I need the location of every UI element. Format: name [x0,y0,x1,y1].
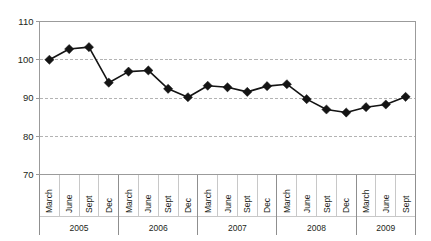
y-axis-tick-label: 70 [23,169,34,180]
x-axis-month-label: Dec [104,197,114,213]
series-line [49,47,405,112]
x-axis-month-label: Sept [242,195,252,213]
line-chart: 708090100110MarchJuneSeptDecMarchJuneSep… [0,0,431,241]
x-axis-month-label: March [203,189,213,213]
x-axis-year-label: 2007 [228,223,247,233]
x-axis-month-label: March [124,189,134,213]
data-point-marker [342,108,351,117]
x-axis-month-label: June [302,194,312,213]
x-axis-year-label: 2009 [376,223,395,233]
x-axis-month-label: Sept [163,195,173,213]
x-axis-month-label: March [361,189,371,213]
x-axis-month-label: Sept [84,195,94,213]
x-axis-year-label: 2008 [307,223,326,233]
data-point-marker [84,43,93,52]
y-axis-tick-label: 90 [23,92,34,103]
data-point-marker [401,92,410,101]
data-point-marker [381,100,390,109]
y-axis-tick-label: 110 [18,16,33,27]
x-axis-month-label: June [143,194,153,213]
x-axis-year-label: 2005 [70,223,89,233]
data-point-marker [262,82,271,91]
x-axis-month-label: June [64,194,74,213]
data-point-marker [243,87,252,96]
x-axis-month-label: Sept [322,195,332,213]
x-axis-month-label: Dec [183,197,193,213]
data-point-marker [183,93,192,102]
y-axis-tick-label: 80 [23,131,34,142]
y-axis-tick-label: 100 [18,54,34,65]
data-point-marker [203,81,212,90]
data-point-marker [361,103,370,112]
x-axis-year-label: 2006 [149,223,168,233]
x-axis-month-label: June [223,194,233,213]
data-point-marker [65,44,74,53]
x-axis-month-label: Sept [401,195,411,213]
data-point-marker [124,67,133,76]
chart-canvas: 708090100110MarchJuneSeptDecMarchJuneSep… [0,0,431,241]
data-point-marker [45,55,54,64]
x-axis-month-label: Dec [341,197,351,213]
data-point-marker [104,78,113,87]
x-axis-month-label: June [381,194,391,213]
x-axis-month-label: Dec [262,197,272,213]
x-axis-month-label: March [282,189,292,213]
data-point-marker [322,105,331,114]
x-axis-month-label: March [44,189,54,213]
data-point-marker [223,83,232,92]
